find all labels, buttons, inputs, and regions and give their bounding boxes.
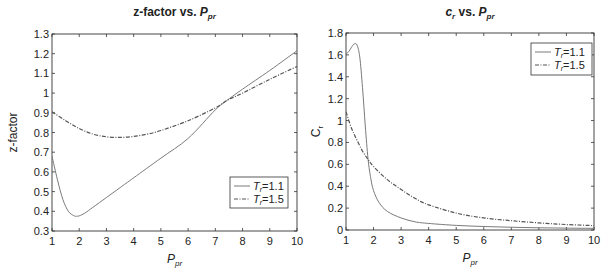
- x-axis-label: Ppr: [167, 252, 182, 268]
- x-tick-label: 1: [49, 235, 55, 247]
- x-tick-label: 9: [267, 235, 273, 247]
- x-tick-label: 8: [239, 235, 245, 247]
- y-tick-label: 1.2: [34, 48, 49, 60]
- x-tick-label: 6: [185, 235, 191, 247]
- y-tick-label: 1: [337, 115, 343, 127]
- chart-title: z-factor vs. Ppr: [133, 5, 217, 21]
- chart-title: cr vs. Ppr: [445, 5, 495, 21]
- legend: Tr=1.1Tr=1.5: [531, 43, 592, 75]
- y-tick-label: 0.4: [34, 205, 49, 217]
- y-tick-label: 0.8: [34, 127, 49, 139]
- y-tick-label: 1: [43, 87, 49, 99]
- y-axis-label: Cr: [309, 126, 325, 138]
- y-tick-label: 1.6: [328, 49, 343, 61]
- legend-entry: Tr=1.1: [253, 180, 284, 193]
- legend-entry: Tr=1.5: [554, 59, 585, 72]
- y-tick-label: 0: [337, 224, 343, 236]
- y-tick-label: 1.4: [328, 71, 343, 83]
- x-tick-label: 9: [563, 234, 569, 246]
- x-axis-label: Ppr: [462, 251, 477, 267]
- y-tick-label: 0.6: [34, 166, 49, 178]
- x-tick-label: 2: [370, 234, 376, 246]
- y-tick-label: 1.2: [328, 93, 343, 105]
- y-tick-label: 0.6: [328, 158, 343, 170]
- x-tick-label: 2: [76, 235, 82, 247]
- x-tick-label: 1: [343, 234, 349, 246]
- x-tick-label: 3: [103, 235, 109, 247]
- x-tick-label: 4: [131, 235, 137, 247]
- y-tick-label: 1.3: [34, 28, 49, 40]
- legend-entry: Tr=1.5: [253, 193, 284, 206]
- legend: Tr=1.1Tr=1.5: [230, 177, 288, 208]
- x-tick-label: 5: [453, 234, 459, 246]
- y-tick-label: 0.8: [328, 136, 343, 148]
- x-tick-label: 10: [588, 234, 600, 246]
- legend-entry: Tr=1.1: [554, 46, 585, 59]
- y-tick-label: 1.8: [328, 27, 343, 39]
- x-tick-label: 5: [158, 235, 164, 247]
- y-tick-label: 0.9: [34, 107, 49, 119]
- y-tick-label: 0.4: [328, 180, 343, 192]
- x-tick-label: 7: [212, 235, 218, 247]
- y-tick-label: 0.7: [34, 146, 49, 158]
- x-tick-label: 7: [508, 234, 514, 246]
- y-tick-label: 0.5: [34, 186, 49, 198]
- x-tick-label: 3: [398, 234, 404, 246]
- z-factor-chart: 123456789100.30.40.50.60.70.80.911.11.21…: [6, 5, 303, 268]
- x-tick-label: 4: [426, 234, 432, 246]
- figure: 123456789100.30.40.50.60.70.80.911.11.21…: [0, 0, 616, 277]
- y-tick-label: 1.1: [34, 67, 49, 79]
- x-axis: 12345678910: [49, 34, 303, 247]
- y-tick-label: 0.2: [328, 202, 343, 214]
- x-tick-label: 8: [536, 234, 542, 246]
- x-tick-label: 10: [291, 235, 303, 247]
- y-tick-label: 0.3: [34, 225, 49, 237]
- cr-chart: 1234567891000.20.40.60.811.21.41.61.8cr …: [309, 5, 600, 267]
- y-axis-label: z-factor: [6, 112, 20, 152]
- x-tick-label: 6: [481, 234, 487, 246]
